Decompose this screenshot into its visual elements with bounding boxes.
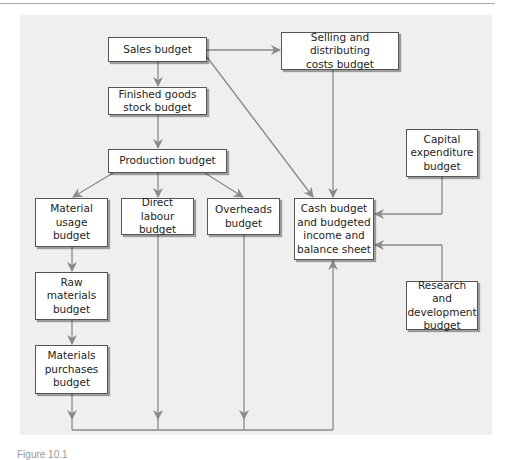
raw-materials-budget-label: Raw materials budget bbox=[47, 276, 96, 317]
raw-materials-budget-node: Raw materials budget bbox=[35, 272, 108, 320]
materials-purchases-budget-node: Materials purchases budget bbox=[35, 345, 108, 394]
production-budget-node: Production budget bbox=[108, 149, 227, 173]
capital-expenditure-budget-label: Capital expenditure budget bbox=[410, 133, 473, 174]
production-budget-label: Production budget bbox=[119, 154, 215, 168]
direct-labour-budget-node: Direct labour budget bbox=[121, 198, 194, 235]
material-usage-budget-label: Material usage budget bbox=[50, 202, 93, 243]
overheads-budget-label: Overheads budget bbox=[215, 203, 272, 230]
research-development-budget-node: Research and development budget bbox=[406, 281, 478, 330]
sales-budget-label: Sales budget bbox=[123, 43, 192, 57]
overheads-budget-node: Overheads budget bbox=[207, 198, 280, 235]
finished-goods-stock-budget-label: Finished goods stock budget bbox=[118, 88, 196, 115]
finished-goods-stock-budget-node: Finished goods stock budget bbox=[108, 87, 207, 115]
material-usage-budget-node: Material usage budget bbox=[35, 198, 108, 247]
capital-expenditure-budget-node: Capital expenditure budget bbox=[406, 129, 478, 177]
direct-labour-budget-label: Direct labour budget bbox=[124, 196, 191, 237]
cash-budget-node: Cash budget and budgeted income and bala… bbox=[294, 198, 374, 260]
cash-budget-label: Cash budget and budgeted income and bala… bbox=[297, 202, 371, 256]
research-development-budget-label: Research and development budget bbox=[407, 279, 476, 333]
selling-distributing-costs-budget-node: Selling and distributing costs budget bbox=[281, 32, 399, 70]
sales-budget-node: Sales budget bbox=[108, 37, 207, 62]
selling-distributing-costs-budget-label: Selling and distributing costs budget bbox=[284, 31, 396, 72]
figure-caption: Figure 10.1 bbox=[17, 449, 68, 460]
materials-purchases-budget-label: Materials purchases budget bbox=[45, 349, 99, 390]
